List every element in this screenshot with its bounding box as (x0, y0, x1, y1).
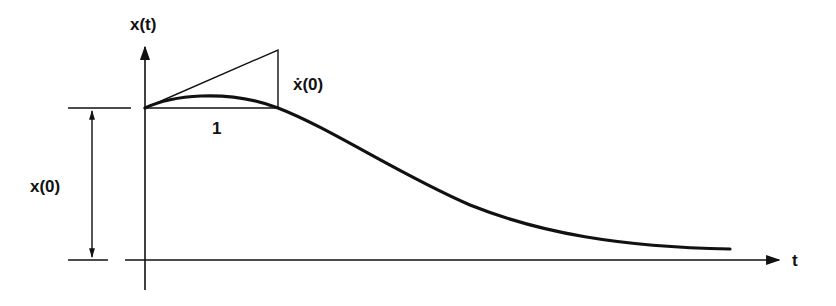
y-axis-label: x(t) (130, 15, 156, 34)
response-curve (145, 96, 730, 249)
initial-value-label: x(0) (30, 177, 60, 196)
initial-slope-label: ẋ(0) (293, 75, 323, 94)
response-diagram: x(t) t x(0) ẋ(0) 1 (0, 0, 836, 306)
diagram-canvas: x(t) t x(0) ẋ(0) 1 (0, 0, 836, 306)
x-axis-label: t (792, 251, 798, 270)
unit-interval-label: 1 (212, 119, 221, 138)
